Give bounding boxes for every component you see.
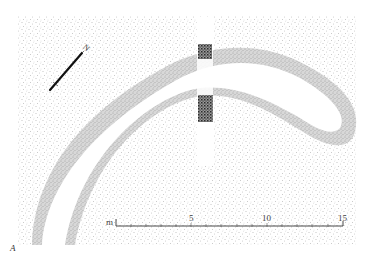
section-fill-outer [198,44,212,59]
scale-label-15: 15 [338,214,347,223]
section-fill-inner [198,95,213,122]
section-strip-cut [197,17,213,165]
figure-label: A [10,243,16,253]
scale-unit-label: m [106,218,113,227]
scale-label-10: 10 [262,214,271,223]
scale-label-5: 5 [189,214,194,223]
